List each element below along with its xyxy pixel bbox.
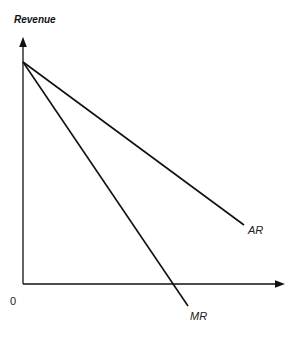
- ar-line: [23, 62, 244, 225]
- mr-line: [23, 62, 188, 306]
- chart-canvas: [0, 0, 292, 338]
- chart: Revenue 0 AR MR: [0, 0, 292, 338]
- origin-label: 0: [10, 295, 16, 307]
- ar-label: AR: [248, 224, 263, 236]
- mr-label: MR: [190, 310, 207, 322]
- y-axis-label: Revenue: [14, 14, 56, 25]
